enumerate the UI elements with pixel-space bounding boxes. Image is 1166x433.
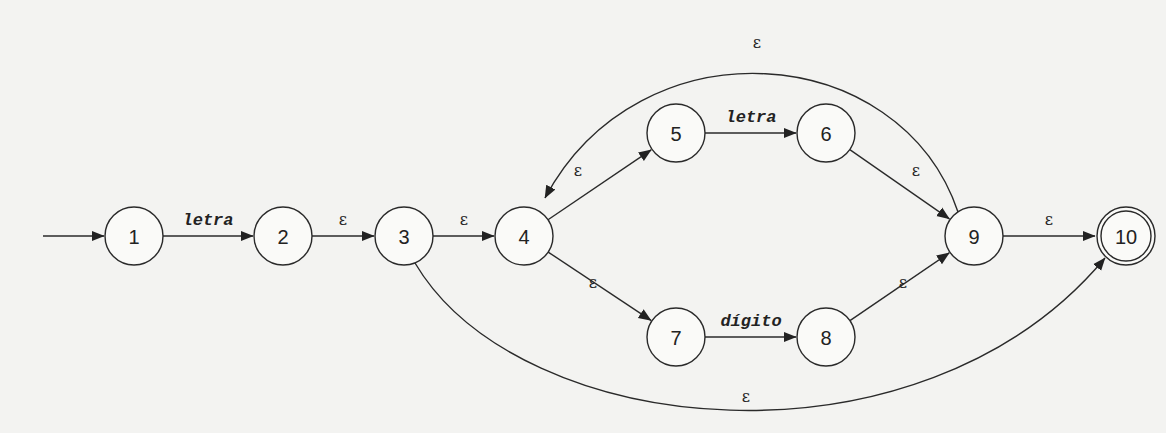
transition-7-to-8-label: dígito <box>720 312 781 331</box>
state-7: 7 <box>647 308 705 366</box>
nfa-diagram: 12345678910 letraεεεεletradígitoεεεεε <box>0 0 1166 433</box>
state-label: 7 <box>670 327 681 349</box>
state-label: 6 <box>820 123 831 145</box>
state-9: 9 <box>945 207 1003 265</box>
state-label: 5 <box>670 123 681 145</box>
state-label: 3 <box>398 226 409 248</box>
transition-4-to-7-label: ε <box>589 273 597 292</box>
state-label: 9 <box>968 226 979 248</box>
state-8: 8 <box>797 308 855 366</box>
transition-9-to-10-label: ε <box>1045 210 1053 229</box>
state-6: 6 <box>797 104 855 162</box>
transition-9-to-4-arrow <box>545 73 958 212</box>
state-label: 4 <box>518 226 529 248</box>
transition-1-to-2-label: letra <box>182 211 233 230</box>
state-label: 8 <box>820 327 831 349</box>
transition-6-to-9-label: ε <box>912 161 920 180</box>
state-3: 3 <box>375 207 433 265</box>
state-10: 10 <box>1097 207 1155 265</box>
state-4: 4 <box>495 207 553 265</box>
transition-3-to-4-label: ε <box>460 210 468 229</box>
transition-9-to-4-label: ε <box>753 33 761 52</box>
state-2: 2 <box>254 207 312 265</box>
state-label: 10 <box>1115 226 1137 248</box>
transition-5-to-6-label: letra <box>725 108 776 127</box>
transition-6-to-9-arrow <box>850 150 950 219</box>
state-1: 1 <box>105 207 163 265</box>
transition-4-to-7-arrow <box>548 252 651 320</box>
transition-2-to-3-label: ε <box>339 210 347 229</box>
state-label: 1 <box>128 226 139 248</box>
transition-3-to-10-label: ε <box>742 387 750 406</box>
state-5: 5 <box>647 104 705 162</box>
transition-4-to-5-arrow <box>548 150 651 220</box>
transition-4-to-5-label: ε <box>574 161 582 180</box>
transition-8-to-9-label: ε <box>899 273 907 292</box>
state-label: 2 <box>277 226 288 248</box>
transition-3-to-10-arrow <box>415 258 1105 410</box>
